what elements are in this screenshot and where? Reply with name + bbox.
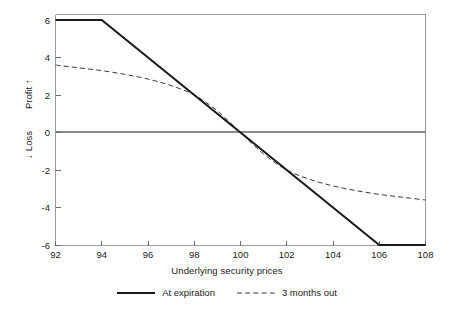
- y-axis-title-profit: Profit: [23, 87, 34, 109]
- y-axis-title-loss: Loss: [23, 131, 34, 151]
- legend-item-3-months-out: 3 months out: [237, 287, 337, 298]
- x-tick-label-98: 98: [179, 249, 209, 260]
- x-tick-label-102: 102: [272, 249, 302, 260]
- x-tick-label-108: 108: [411, 249, 441, 260]
- y-axis-title: ↓ Loss Profit ↑: [21, 34, 35, 204]
- loss-arrow-icon: ↓: [23, 154, 34, 159]
- x-tick-label-104: 104: [318, 249, 348, 260]
- x-tick-label-100: 100: [226, 249, 256, 260]
- profit-loss-chart: 6 4 2 0 -2 -4 -6 92 94 96 98 100 102 104…: [0, 0, 454, 309]
- plot-frame: [56, 15, 426, 246]
- x-axis-title: Underlying security prices: [0, 265, 454, 276]
- legend-label-at-expiration: At expiration: [162, 287, 215, 298]
- chart-legend: At expiration 3 months out: [0, 287, 454, 298]
- y-tick-marks: [56, 21, 61, 246]
- x-tick-label-92: 92: [41, 249, 71, 260]
- profit-arrow-icon: ↑: [23, 79, 34, 84]
- legend-swatch-dashed: [237, 288, 275, 298]
- legend-label-3-months-out: 3 months out: [282, 287, 337, 298]
- x-tick-label-96: 96: [133, 249, 163, 260]
- legend-item-at-expiration: At expiration: [117, 287, 215, 298]
- chart-plot-area: [0, 0, 454, 309]
- y-tick-label-6: 6: [28, 15, 50, 26]
- x-tick-label-106: 106: [364, 249, 394, 260]
- x-tick-marks: [56, 241, 426, 246]
- legend-swatch-solid: [117, 288, 155, 298]
- x-tick-label-94: 94: [87, 249, 117, 260]
